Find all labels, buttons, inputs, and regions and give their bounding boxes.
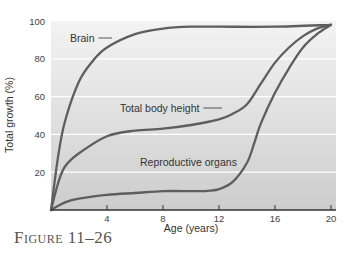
x-axis-title: Age (years) xyxy=(164,222,218,234)
y-tick-label: 60 xyxy=(34,91,45,102)
label-total-body-height: Total body height xyxy=(120,102,199,114)
x-tick-label: 20 xyxy=(326,213,337,224)
figure-caption: Figure 11–26 xyxy=(14,228,112,248)
label-brain: Brain xyxy=(70,32,95,44)
plot-background xyxy=(51,21,336,210)
y-axis-title: Total growth (%) xyxy=(3,77,15,153)
y-ticks: 20406080100 xyxy=(29,16,45,178)
label-reproductive-organs: Reproductive organs xyxy=(140,156,237,168)
y-tick-label: 80 xyxy=(34,53,45,64)
y-tick-label: 40 xyxy=(34,129,45,140)
y-tick-label: 100 xyxy=(29,16,45,27)
x-tick-label: 16 xyxy=(270,213,281,224)
x-tick-label: 4 xyxy=(104,213,109,224)
growth-chart: BrainTotal body heightReproductive organ… xyxy=(0,0,349,255)
y-tick-label: 20 xyxy=(34,167,45,178)
